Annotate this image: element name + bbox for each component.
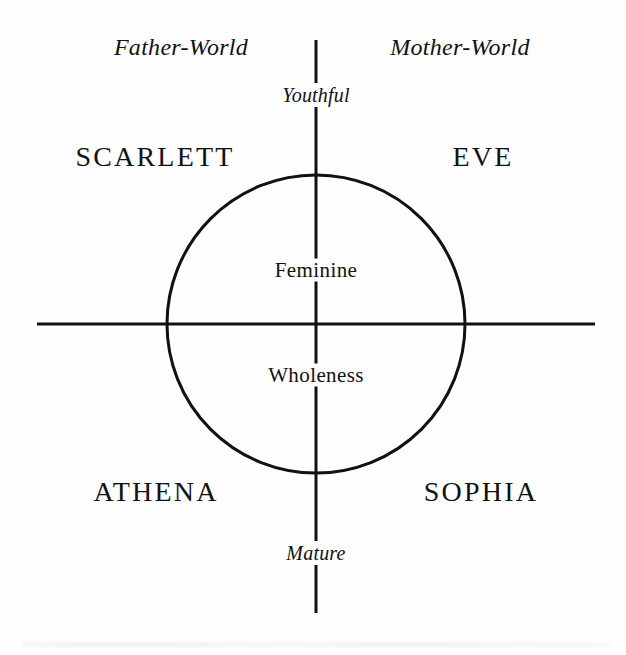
world-label-father: Father-World	[114, 35, 248, 59]
archetype-label-athena: ATHENA	[93, 478, 218, 506]
center-label-wholeness: Wholeness	[258, 364, 374, 387]
center-label-feminine: Feminine	[265, 259, 368, 282]
pole-label-mature: Mature	[279, 541, 352, 565]
archetype-label-sophia: SOPHIA	[424, 478, 538, 506]
pole-label-youthful: Youthful	[275, 83, 357, 107]
scan-artifact	[22, 642, 612, 647]
feminine-wholeness-diagram: Father-World Mother-World Youthful SCARL…	[0, 0, 626, 655]
world-label-mother: Mother-World	[390, 35, 530, 59]
archetype-label-scarlett: SCARLETT	[75, 143, 234, 171]
archetype-label-eve: EVE	[452, 143, 513, 171]
